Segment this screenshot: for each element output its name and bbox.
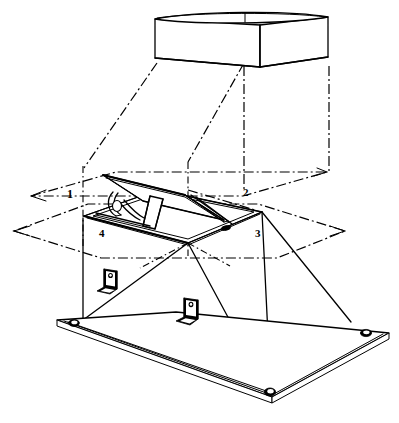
top-duct-box — [155, 12, 328, 67]
callout-label-2: 2 — [243, 187, 249, 198]
callout-label-3: 3 — [255, 228, 261, 239]
callout-label-4: 4 — [99, 228, 105, 239]
mounting-hole-bottom — [264, 388, 275, 396]
mounting-hole-left — [69, 320, 80, 327]
callout-label-1: 1 — [67, 188, 73, 200]
assembly-drawing-canvas: .ln { fill:none; stroke:#000; stroke-wid… — [0, 0, 399, 423]
technical-diagram: .ln { fill:none; stroke:#000; stroke-wid… — [0, 0, 399, 423]
mounting-hole-right — [360, 329, 371, 336]
